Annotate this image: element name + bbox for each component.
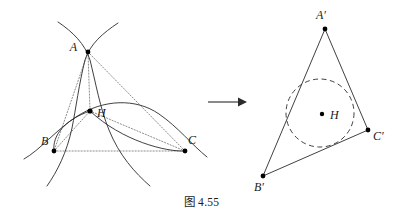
transformation-arrow — [208, 98, 247, 107]
figure-canvas: A B C H — [0, 0, 403, 218]
label-H-right: H — [329, 108, 340, 122]
arc-through-A-B-H — [47, 23, 118, 186]
side-A-B — [263, 29, 325, 176]
vertex-C — [183, 149, 188, 154]
caption-number: 4.55 — [198, 196, 219, 208]
label-B: B — [41, 134, 49, 148]
cevian-A-H — [88, 52, 90, 111]
right-triangle-sides — [263, 29, 368, 176]
vertex-A-prime — [323, 27, 328, 32]
label-A-prime: A′ — [315, 8, 326, 22]
figure-caption: 图 4.55 — [0, 193, 403, 209]
label-H: H — [96, 106, 107, 120]
vertex-C-prime — [366, 128, 371, 133]
vertex-A — [86, 50, 91, 55]
vertex-H — [87, 108, 92, 113]
side-B-C — [263, 130, 368, 176]
left-dotted-lines — [54, 52, 185, 151]
segment-A-C — [88, 52, 185, 151]
left-diagram: A B C H — [24, 22, 207, 186]
incircle — [286, 79, 354, 147]
arrow-head-icon — [238, 98, 247, 107]
arc-through-B-C-H — [24, 103, 207, 159]
right-vertex-labels: A′ B′ C′ H — [254, 8, 384, 194]
vertex-B — [52, 149, 57, 154]
right-diagram: A′ B′ C′ H — [254, 8, 384, 194]
left-arcs — [24, 22, 207, 186]
label-B-prime: B′ — [254, 180, 264, 194]
segment-A-B — [54, 52, 88, 151]
caption-prefix: 图 — [184, 196, 195, 208]
left-vertices — [52, 50, 188, 154]
label-C: C — [188, 133, 197, 147]
right-vertices — [261, 27, 371, 179]
label-C-prime: C′ — [373, 129, 384, 143]
vertex-B-prime — [261, 174, 266, 179]
geometry-figure: A B C H — [0, 0, 403, 218]
incenter-H — [320, 112, 324, 116]
label-A: A — [69, 40, 78, 54]
